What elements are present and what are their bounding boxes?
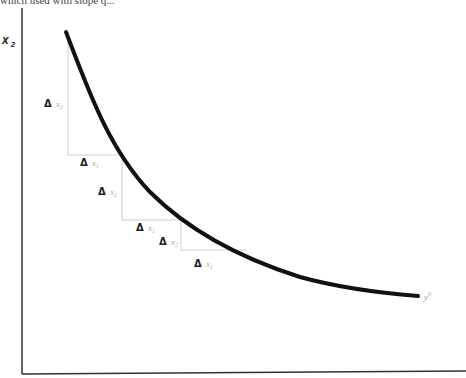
svg-text:Δ: Δ [159, 236, 167, 247]
y-axis-label: x2 [1, 33, 16, 49]
svg-text:Δ: Δ [136, 222, 144, 233]
step-label-dx1-2: Δ x1 [136, 222, 155, 234]
step-label-dx1-3: Δ x1 [194, 258, 213, 270]
svg-text:x1: x1 [147, 223, 155, 234]
svg-text:Δ: Δ [44, 98, 52, 109]
step-label-dx1-1: Δ x1 [80, 157, 99, 169]
svg-text:x1: x1 [91, 158, 99, 169]
svg-text:Δ: Δ [80, 157, 88, 168]
step-guides [68, 40, 246, 250]
isoquant-curve [66, 32, 418, 296]
svg-text:x2: x2 [55, 99, 63, 110]
svg-text:x2: x2 [109, 187, 117, 198]
step-label-dx2-1: Δ x2 [44, 98, 63, 110]
step-label-dx2-3: Δ x2 [159, 236, 178, 248]
svg-text:x2: x2 [170, 237, 178, 248]
isoquant-diagram: x2 y0 Δ x2 Δ x1 Δ x2 Δ x1 Δ x2 Δ x1 [0, 0, 466, 378]
curve-label: y0 [423, 291, 431, 302]
step-label-dx2-2: Δ x2 [98, 186, 117, 198]
svg-text:x1: x1 [205, 259, 213, 270]
svg-text:Δ: Δ [194, 258, 202, 269]
svg-text:Δ: Δ [98, 186, 106, 197]
x-axis [22, 371, 466, 374]
